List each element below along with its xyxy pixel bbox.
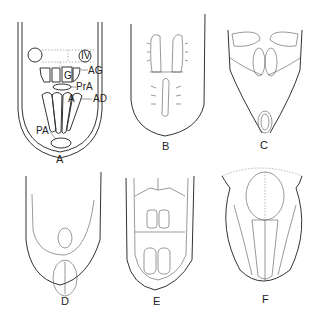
label-pra: PrA xyxy=(76,81,93,92)
label-pa: PA xyxy=(36,125,49,136)
panel-b-drawing xyxy=(131,14,205,136)
panel-f-drawing xyxy=(222,168,302,281)
label-a: A xyxy=(68,93,75,104)
panel-label-c: C xyxy=(260,139,268,151)
panel-label-d: D xyxy=(61,295,69,307)
panel-label-f: F xyxy=(262,293,269,305)
figure-canvas: IV G AG PrA A AD PA A B C D xyxy=(0,0,322,323)
panel-c-drawing xyxy=(228,30,302,133)
panel-label-b: B xyxy=(162,140,169,152)
panel-label-a: A xyxy=(56,153,64,165)
label-ag: AG xyxy=(88,65,103,76)
panel-e-drawing xyxy=(126,176,194,290)
panel-label-e: E xyxy=(153,295,160,307)
panel-d-drawing xyxy=(26,172,101,296)
label-g: G xyxy=(64,70,72,81)
label-ad: AD xyxy=(93,93,107,104)
label-iv: IV xyxy=(81,50,91,61)
